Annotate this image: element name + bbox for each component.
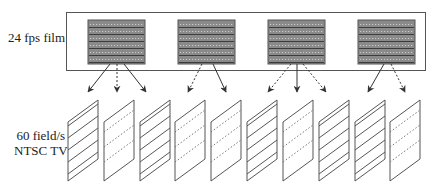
- tv-field-even: [319, 100, 349, 181]
- tv-field-even: [175, 100, 205, 181]
- arrow-odd-field: [124, 64, 146, 92]
- tv-field-odd: [355, 100, 385, 181]
- tv-field-odd: [283, 100, 313, 181]
- pulldown-diagram: [0, 0, 437, 189]
- film-frame: [268, 20, 325, 64]
- arrow-even-field: [303, 64, 326, 92]
- film-frame: [88, 20, 145, 64]
- tv-fields: [68, 100, 420, 181]
- arrow-odd-field: [213, 64, 226, 92]
- arrow-even-field: [391, 64, 405, 92]
- arrow-odd-field: [88, 64, 110, 92]
- tv-field-odd: [140, 100, 170, 181]
- arrow-odd-field: [368, 64, 384, 92]
- tv-field-even: [104, 100, 134, 181]
- tv-field-odd: [211, 100, 241, 181]
- tv-field-even: [247, 100, 277, 181]
- arrow-even-field: [188, 64, 202, 92]
- film-frame: [358, 20, 415, 64]
- tv-field-even: [390, 100, 420, 181]
- tv-field-odd: [68, 100, 98, 181]
- arrow-even-field: [268, 64, 291, 92]
- film-frame: [178, 20, 235, 64]
- film-frames: [88, 20, 415, 64]
- pulldown-arrows: [88, 64, 405, 92]
